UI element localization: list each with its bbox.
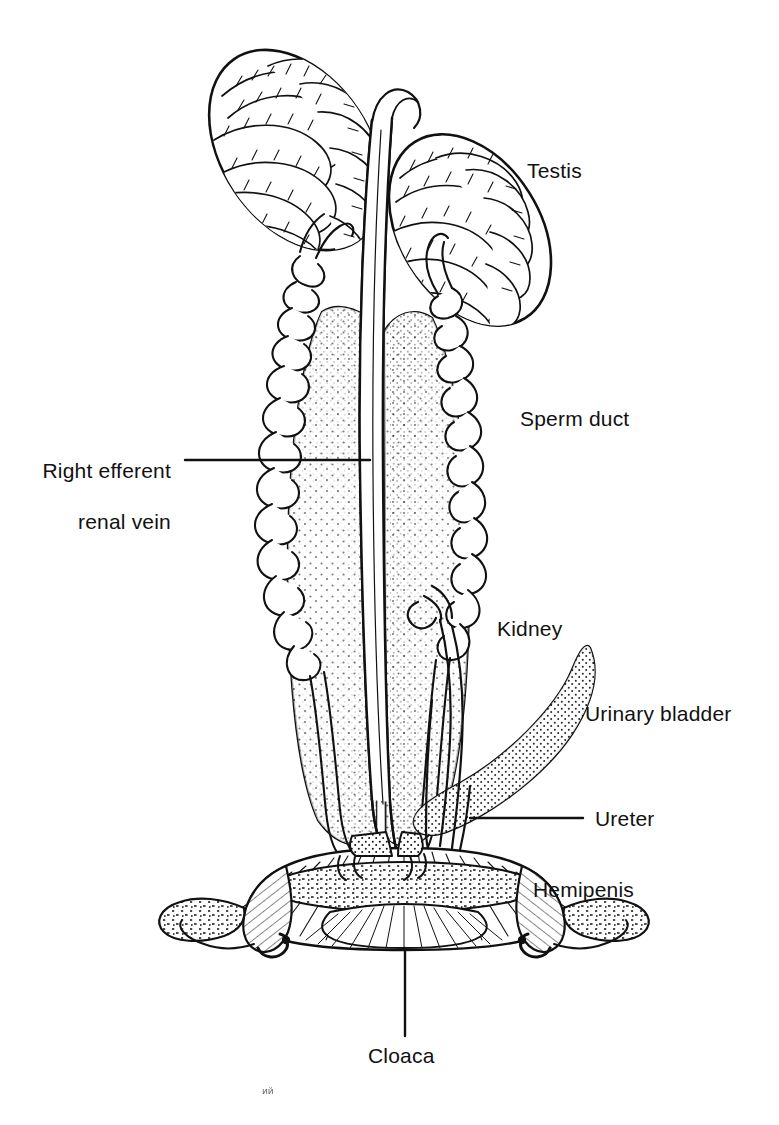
- label-sperm-duct: Sperm duct: [520, 406, 629, 432]
- label-hemipenis: Hemipenis: [533, 877, 634, 903]
- label-right-efferent-renal-vein-line1: Right efferent: [43, 459, 172, 482]
- label-cloaca: Cloaca: [368, 1043, 435, 1069]
- label-right-efferent-renal-vein-line2: renal vein: [78, 510, 171, 533]
- label-urinary-bladder: Urinary bladder: [585, 701, 732, 727]
- scan-artifact: ий: [262, 1086, 274, 1096]
- label-right-efferent-renal-vein: Right efferent renal vein: [0, 432, 185, 560]
- anatomical-figure: Testis Right efferent renal vein Sperm d…: [0, 0, 779, 1125]
- figure-canvas: [0, 0, 779, 1125]
- label-testis: Testis: [527, 158, 582, 184]
- left-hemipenis: [159, 866, 291, 957]
- label-ureter: Ureter: [595, 806, 655, 832]
- label-kidney: Kidney: [497, 616, 562, 642]
